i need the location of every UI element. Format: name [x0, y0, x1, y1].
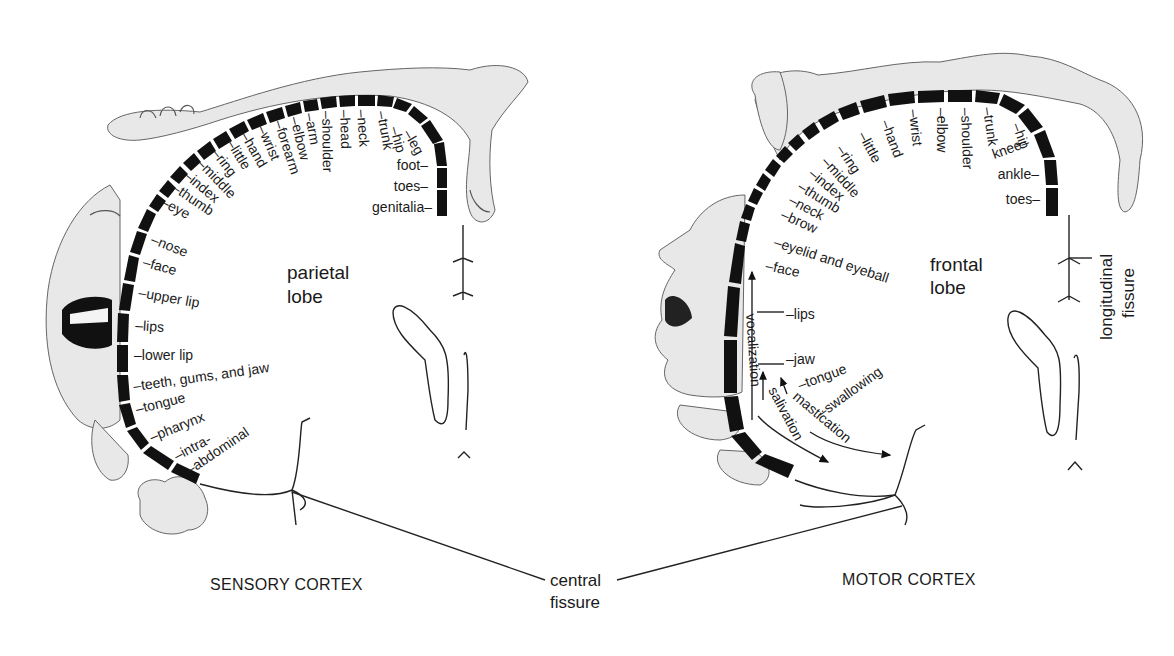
central-fissure-label-line1: central — [550, 571, 601, 590]
sensory-label-lips: –lips — [135, 317, 165, 335]
vocalization-label: vocalization — [743, 313, 764, 387]
sensory-label-lower-lip: –lower lip — [134, 347, 193, 363]
sensory-body-part-labels: genitalia–toes–foot––leg–hip–trunk–neck–… — [132, 109, 432, 477]
motor-body-part-labels: toes–ankle–knee––hip–trunk–shoulder–elbo… — [764, 106, 1040, 420]
sensory-label-toes: toes– — [394, 178, 428, 194]
longitudinal-fissure-callout: longitudinal fissure — [1097, 254, 1138, 340]
sensory-label-head: –head — [337, 110, 354, 149]
sensory-label-upper-lip: –upper lip — [137, 284, 201, 310]
motor-label-shoulder: –shoulder — [958, 108, 976, 170]
motor-cortex-panel: toes–ankle–knee––hip–trunk–shoulder–elbo… — [655, 53, 1142, 588]
motor-label-ankle: ankle– — [998, 166, 1039, 182]
motor-function-arrows: vocalization salivation mastication — [743, 272, 890, 462]
sensory-label-tongue: –tongue — [134, 389, 187, 417]
motor-cortex-title: MOTOR CORTEX — [842, 571, 976, 588]
sensory-cortex-panel: genitalia–toes–foot––leg–hip–trunk–neck–… — [46, 66, 528, 593]
sensory-label-neck: –neck — [354, 109, 373, 148]
frontal-lobe-label-line1: frontal — [930, 254, 983, 275]
parietal-lobe-label-line1: parietal — [287, 262, 349, 283]
motor-label-wrist: –wrist — [906, 109, 926, 147]
motor-label-lips: –lips — [786, 306, 815, 322]
sensory-label-teeth-gums-and-jaw: –teeth, gums, and jaw — [132, 359, 271, 394]
motor-label-trunk: –trunk — [980, 106, 1001, 148]
sensory-cortex-title: SENSORY CORTEX — [210, 576, 363, 593]
motor-label-elbow: –elbow — [934, 108, 950, 153]
sensory-label-face: –face — [141, 254, 179, 279]
sensory-label-foot: foot– — [397, 157, 428, 173]
parietal-lobe-label-line2: lobe — [287, 286, 323, 307]
central-fissure-label-line2: fissure — [550, 593, 600, 612]
motor-label-toes: toes– — [1006, 191, 1040, 207]
frontal-lobe-label-line2: lobe — [930, 277, 966, 298]
longitudinal-fissure-label-line1: longitudinal — [1097, 254, 1116, 340]
motor-label-face: –face — [764, 257, 801, 280]
sensory-label-trunk: –trunk — [374, 110, 397, 152]
sensory-label-genitalia: genitalia– — [372, 199, 432, 215]
cortex-homunculus-diagram: genitalia–toes–foot––leg–hip–trunk–neck–… — [0, 0, 1174, 656]
motor-label-jaw: –jaw — [786, 351, 816, 367]
central-fissure-callout: central fissure — [292, 492, 902, 612]
longitudinal-fissure-label-line2: fissure — [1119, 268, 1138, 318]
